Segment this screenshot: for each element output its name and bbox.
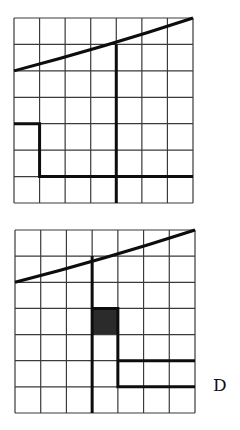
bottom-grid [15, 230, 195, 413]
shaded-cell [92, 308, 118, 334]
top-grid [14, 18, 193, 203]
figure-label-d: D [213, 375, 227, 395]
grid-diagram [0, 0, 240, 430]
